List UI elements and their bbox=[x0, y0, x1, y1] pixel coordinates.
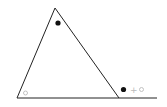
triangle-right-side bbox=[55, 8, 119, 98]
exterior-open-marker-icon bbox=[140, 88, 144, 92]
exterior-filled-marker-icon bbox=[121, 87, 126, 92]
bottom-left-angle-open-marker-icon bbox=[24, 91, 28, 95]
exterior-angle-label: + bbox=[121, 85, 144, 95]
triangle-left-side bbox=[17, 8, 55, 98]
apex-angle-filled-marker-icon bbox=[55, 20, 60, 25]
triangle-exterior-angle-diagram: + bbox=[0, 0, 167, 107]
plus-sign: + bbox=[130, 85, 138, 95]
